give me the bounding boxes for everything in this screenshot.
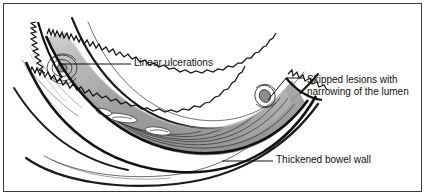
label-linear-ulcerations: Linear ulcerations	[134, 57, 213, 69]
figure-root: Linear ulcerations Skipped lesions withn…	[0, 0, 426, 196]
label-thickened-bowel-wall: Thickened bowel wall	[276, 154, 371, 166]
label-skipped-lesions-line1: Skipped lesions with	[307, 74, 398, 85]
label-skipped-lesions-line2: narrowing of the lumen	[307, 86, 409, 97]
label-skipped-lesions: Skipped lesions withnarrowing of the lum…	[307, 74, 409, 97]
bowel-illustration	[0, 0, 426, 196]
